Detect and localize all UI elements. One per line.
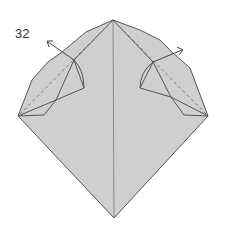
- step-number: 32: [15, 26, 29, 41]
- origami-figure: [0, 0, 225, 227]
- origami-diagram: 32: [0, 0, 225, 227]
